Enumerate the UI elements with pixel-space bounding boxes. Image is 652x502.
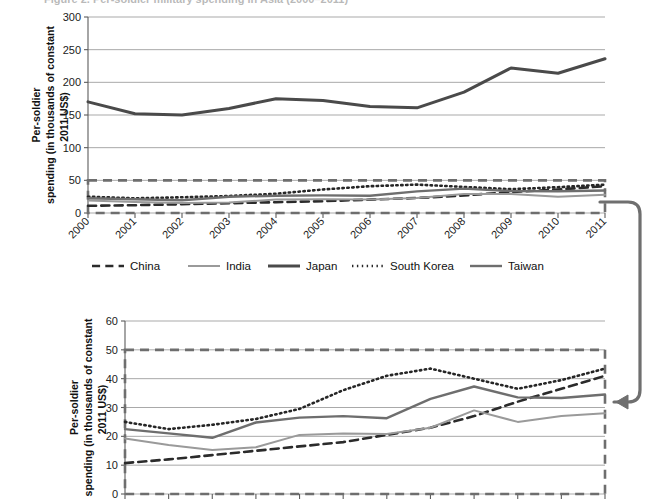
xtick-label-2002: 2002 xyxy=(160,215,186,241)
y-axis-title-bottom-chart: Per-soldierspending (in thousands of con… xyxy=(68,318,108,496)
xtick-label-2006: 2006 xyxy=(348,215,374,241)
panel-bottom-chart: 0102030405060Per-soldierspending (in tho… xyxy=(68,315,605,500)
figure-title-fragment: Figure 2. Per-soldier military spending … xyxy=(44,0,564,5)
xtick-label-2008: 2008 xyxy=(442,215,468,241)
ytick-label-0: 0 xyxy=(112,488,118,500)
ytick-label-50: 50 xyxy=(106,344,118,356)
ytick-label-200: 200 xyxy=(63,76,81,88)
legend-label-south-korea[interactable]: South Korea xyxy=(390,260,455,272)
y-axis-title-line2: spending (in thousands of constant xyxy=(82,318,94,496)
xtick-label-2003: 2003 xyxy=(207,215,233,241)
figure-root: Figure 2. Per-soldier military spending … xyxy=(0,0,652,502)
y-axis-title-line3: 2011 US$) xyxy=(58,92,70,142)
xtick-label-2011: 2011 xyxy=(583,215,608,240)
xtick-label-2010: 2010 xyxy=(536,215,562,241)
legend-label-japan[interactable]: Japan xyxy=(306,260,337,272)
legend-label-china[interactable]: China xyxy=(130,260,161,272)
legend-label-taiwan[interactable]: Taiwan xyxy=(508,260,544,272)
ytick-label-40: 40 xyxy=(106,373,118,385)
panel-top-chart: 0501001502002503002000200120022003200420… xyxy=(30,11,608,241)
ytick-label-60: 60 xyxy=(106,315,118,327)
legend-label-india[interactable]: India xyxy=(226,260,252,272)
xtick-label-2004: 2004 xyxy=(254,215,280,241)
y-axis-title-line1: Per-soldier xyxy=(30,88,42,143)
ytick-label-300: 300 xyxy=(63,11,81,23)
y-axis-title-line1: Per-soldier xyxy=(68,380,80,435)
xtick-label-2005: 2005 xyxy=(301,215,327,241)
xaxis-top-chart: 2000200120022003200420052006200720082009… xyxy=(66,213,609,241)
ytick-label-250: 250 xyxy=(63,44,81,56)
zoom-callout-arrow xyxy=(600,202,640,409)
xtick-label-2001: 2001 xyxy=(113,215,139,241)
ytick-label-50: 50 xyxy=(69,174,81,186)
y-axis-title-line3: 2011 US$) xyxy=(96,385,108,435)
chart-canvas: 0501001502002503002000200120022003200420… xyxy=(0,0,652,502)
callout-arrow-head xyxy=(616,395,628,409)
xtick-label-2007: 2007 xyxy=(395,215,421,241)
xtick-label-2009: 2009 xyxy=(489,215,515,241)
y-axis-title-line2: spending (in thousands of constant xyxy=(44,26,56,204)
xtick-label-2000: 2000 xyxy=(66,215,92,241)
legend: ChinaIndiaJapanSouth KoreaTaiwan xyxy=(92,260,544,272)
ytick-label-10: 10 xyxy=(106,459,118,471)
ytick-label-100: 100 xyxy=(63,142,81,154)
